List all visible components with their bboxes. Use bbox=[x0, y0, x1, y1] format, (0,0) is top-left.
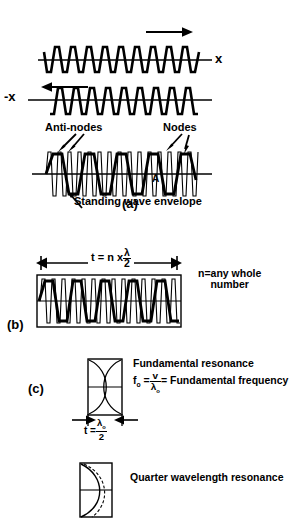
panel-label-a: (a) bbox=[122, 197, 138, 211]
panel-c-formula: fo =vλo= Fundamental frequency bbox=[133, 371, 288, 394]
dimension-prefix: t = n x bbox=[91, 251, 123, 263]
axis-label-negative-x: -x bbox=[4, 90, 16, 104]
formula-subscript: o bbox=[137, 381, 141, 388]
dimension-fraction: λ2 bbox=[123, 248, 131, 270]
panel-label-b: (b) bbox=[7, 318, 24, 332]
right-arrow-icon bbox=[146, 27, 193, 37]
panel-b-dimension-label: t = n xλ2 bbox=[88, 248, 134, 270]
node-pointer-arrows bbox=[166, 134, 189, 154]
panel-label-c: (c) bbox=[28, 382, 44, 396]
thickness-fraction: λo2 bbox=[96, 418, 107, 441]
formula-denominator: λo bbox=[150, 382, 161, 394]
axis-label-x: x bbox=[215, 52, 222, 66]
thickness-prefix: t = bbox=[84, 425, 96, 436]
panel-b-note-line2: number bbox=[198, 279, 261, 290]
panel-c-thickness-label: t =λo2 bbox=[84, 418, 107, 441]
panel-d-title: Quarter wavelength resonance bbox=[130, 472, 283, 483]
dimension-denominator: 2 bbox=[123, 259, 131, 269]
antinode-pointer-arrows bbox=[58, 134, 84, 152]
amplitude-marker-a: A bbox=[152, 173, 159, 184]
panel-d-cavity-figure bbox=[60, 460, 200, 522]
formula-suffix: = Fundamental frequency bbox=[161, 374, 289, 386]
thickness-denominator: 2 bbox=[96, 432, 107, 442]
formula-fraction: vλo bbox=[150, 371, 161, 394]
panel-b-note: n=any whole number bbox=[198, 268, 261, 290]
thickness-numerator: λo bbox=[96, 418, 107, 432]
panel-c-thickness-arrows bbox=[60, 412, 200, 428]
reverse-wave-curve bbox=[50, 88, 198, 114]
panel-c-annotation: Fundamental resonance fo =vλo= Fundament… bbox=[133, 358, 288, 394]
panel-c-title: Fundamental resonance bbox=[133, 358, 288, 369]
